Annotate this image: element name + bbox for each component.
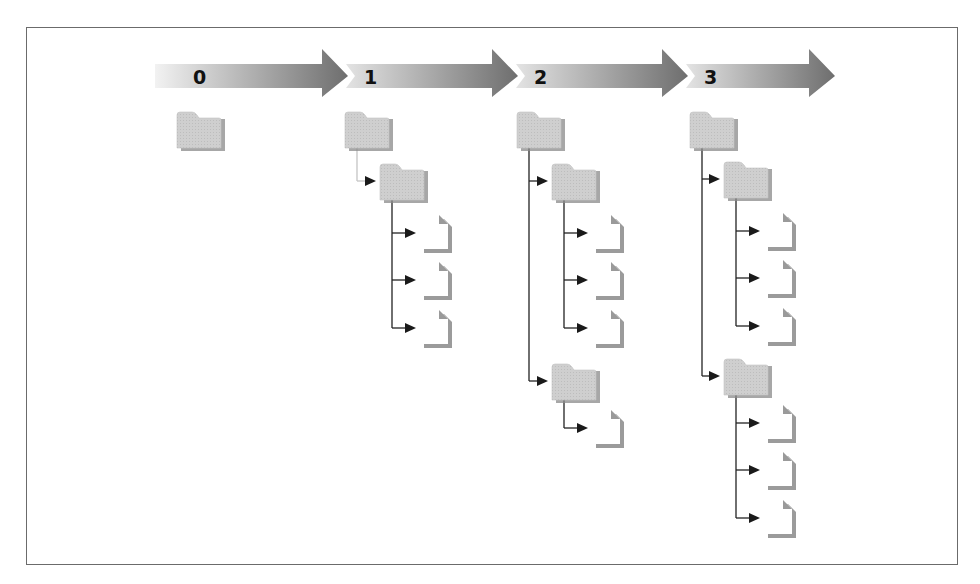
file-icon — [764, 452, 796, 490]
arrowhead-icon — [749, 321, 760, 331]
folder-icon — [690, 112, 738, 151]
arrowhead-icon — [709, 174, 720, 184]
file-icon — [420, 262, 452, 300]
arrowhead-icon — [709, 371, 720, 381]
stage-label: 3 — [704, 66, 717, 88]
stage-label: 1 — [364, 66, 377, 88]
folder-icon — [177, 112, 225, 151]
stage-label: 0 — [193, 66, 206, 88]
directory-growth-diagram: 0123 — [0, 0, 980, 584]
arrowhead-icon — [749, 465, 760, 475]
arrowhead-icon — [405, 228, 416, 238]
arrowhead-icon — [537, 176, 548, 186]
stage-arrow-0: 0 — [155, 49, 348, 97]
arrowhead-icon — [537, 376, 548, 386]
arrowhead-icon — [577, 228, 588, 238]
tree-nodes — [177, 112, 796, 538]
file-icon — [764, 500, 796, 538]
timeline-arrows: 0123 — [155, 49, 835, 97]
file-icon — [420, 215, 452, 253]
file-icon — [764, 213, 796, 251]
arrowhead-icon — [405, 275, 416, 285]
stage-arrow-1: 1 — [346, 49, 518, 97]
arrowhead-icon — [749, 418, 760, 428]
file-icon — [764, 405, 796, 443]
arrowhead-icon — [749, 273, 760, 283]
file-icon — [592, 410, 624, 448]
arrowhead-icon — [365, 176, 376, 186]
stage-arrow-3: 3 — [686, 49, 835, 97]
folder-icon — [380, 164, 428, 203]
stage-label: 2 — [534, 66, 547, 88]
folder-icon — [724, 359, 772, 398]
folder-icon — [345, 112, 393, 151]
file-icon — [592, 215, 624, 253]
arrowhead-icon — [577, 275, 588, 285]
folder-icon — [552, 164, 600, 203]
arrowhead-icon — [749, 513, 760, 523]
file-icon — [764, 260, 796, 298]
file-icon — [592, 310, 624, 348]
file-icon — [592, 262, 624, 300]
file-icon — [420, 310, 452, 348]
arrowhead-icon — [405, 323, 416, 333]
folder-icon — [724, 162, 772, 201]
file-icon — [764, 308, 796, 346]
arrowhead-icon — [577, 323, 588, 333]
stage-arrow-2: 2 — [516, 49, 688, 97]
arrowhead-icon — [749, 226, 760, 236]
arrowhead-icon — [577, 423, 588, 433]
folder-icon — [552, 364, 600, 403]
folder-icon — [517, 112, 565, 151]
